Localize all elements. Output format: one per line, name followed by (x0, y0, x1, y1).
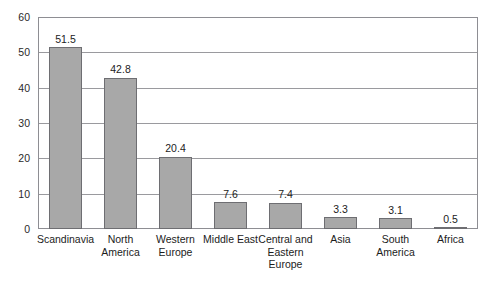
bar-value-label: 7.4 (260, 189, 311, 200)
category-label-line: Eastern (256, 246, 316, 259)
bars-layer: 51.542.820.47.67.43.33.10.5 (38, 17, 478, 229)
bar[interactable] (214, 202, 247, 229)
bar-group[interactable]: 3.1 (379, 17, 412, 229)
y-tick-label-0: 0 (0, 224, 30, 235)
category-label-line: Middle East (201, 233, 261, 246)
bar-value-label: 3.1 (370, 205, 421, 216)
bar[interactable] (434, 227, 467, 229)
category-label-line: Central and (256, 233, 316, 246)
category-label-line: Europe (146, 246, 206, 259)
bar[interactable] (159, 157, 192, 229)
category-axis: ScandinaviaNorthAmericaWesternEuropeMidd… (38, 233, 478, 283)
category-label: SouthAmerica (366, 233, 426, 258)
bar-group[interactable]: 7.4 (269, 17, 302, 229)
y-tick-label-40: 40 (0, 83, 30, 94)
bar-group[interactable]: 42.8 (104, 17, 137, 229)
bar-chart: 0102030405060 51.542.820.47.67.43.33.10.… (0, 0, 491, 283)
bar-group[interactable]: 51.5 (49, 17, 82, 229)
bar-value-label: 0.5 (425, 214, 476, 225)
category-label-line: South (366, 233, 426, 246)
category-label: Africa (421, 233, 481, 246)
bar-value-label: 51.5 (40, 34, 91, 45)
y-tick-label-30: 30 (0, 118, 30, 129)
category-label-line: America (366, 246, 426, 259)
category-label: Middle East (201, 233, 261, 246)
category-label-line: North (91, 233, 151, 246)
category-label: Central andEasternEurope (256, 233, 316, 271)
category-label: NorthAmerica (91, 233, 151, 258)
category-label: Scandinavia (36, 233, 96, 246)
bar-value-label: 42.8 (95, 64, 146, 75)
bar[interactable] (324, 217, 357, 229)
bar-group[interactable]: 0.5 (434, 17, 467, 229)
category-label: WesternEurope (146, 233, 206, 258)
bar-group[interactable]: 3.3 (324, 17, 357, 229)
bar-value-label: 3.3 (315, 204, 366, 215)
y-tick-label-20: 20 (0, 153, 30, 164)
category-label-line: Western (146, 233, 206, 246)
bar-group[interactable]: 20.4 (159, 17, 192, 229)
category-label-line: Africa (421, 233, 481, 246)
bar[interactable] (269, 203, 302, 229)
bar[interactable] (379, 218, 412, 229)
bar-group[interactable]: 7.6 (214, 17, 247, 229)
category-label-line: Asia (311, 233, 371, 246)
y-tick-label-50: 50 (0, 47, 30, 58)
bar[interactable] (49, 47, 82, 229)
category-label-line: America (91, 246, 151, 259)
category-label-line: Scandinavia (36, 233, 96, 246)
y-axis: 0102030405060 (0, 0, 34, 283)
y-tick-label-10: 10 (0, 189, 30, 200)
bar[interactable] (104, 78, 137, 229)
bar-value-label: 20.4 (150, 143, 201, 154)
bar-value-label: 7.6 (205, 189, 256, 200)
y-tick-label-60: 60 (0, 12, 30, 23)
category-label: Asia (311, 233, 371, 246)
category-label-line: Europe (256, 258, 316, 271)
